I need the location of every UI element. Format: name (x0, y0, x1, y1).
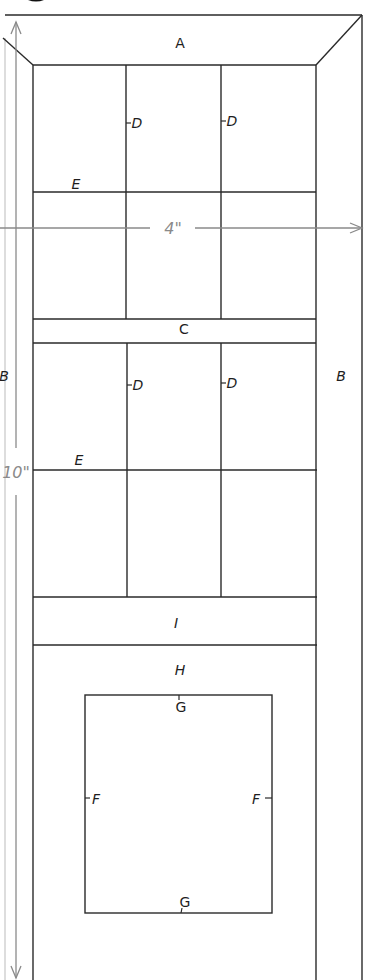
inner-frame (33, 65, 316, 980)
width-dimension: 4" (0, 219, 362, 238)
label-f-left: F (92, 791, 101, 807)
mitre-right (316, 15, 362, 65)
width-label: 4" (164, 219, 182, 238)
mitre-left (3, 38, 33, 65)
label-g-bottom: G (180, 894, 191, 910)
label-d-4: D (227, 375, 238, 391)
inner-square (85, 695, 272, 913)
label-e-upper: E (72, 176, 81, 192)
height-dimension: 10" (2, 22, 30, 978)
outer-frame (5, 15, 362, 980)
label-d-3: D (133, 377, 144, 393)
label-f-right: F (252, 791, 261, 807)
label-g-top: G (176, 699, 187, 715)
label-e-lower: E (75, 452, 84, 468)
label-b-right: B (336, 368, 346, 384)
label-d-1: D (132, 115, 143, 131)
label-a: A (175, 35, 185, 51)
corner-circle-fragment (28, 0, 44, 1)
quilt-block-diagram: 4" 10" A B B C D D D D E E I H G G F F (0, 0, 367, 980)
label-h: H (175, 662, 186, 678)
label-i: I (174, 615, 178, 631)
label-c: C (179, 321, 189, 337)
label-b-left: B (0, 368, 9, 384)
label-d-2: D (227, 113, 238, 129)
height-label: 10" (2, 463, 30, 482)
